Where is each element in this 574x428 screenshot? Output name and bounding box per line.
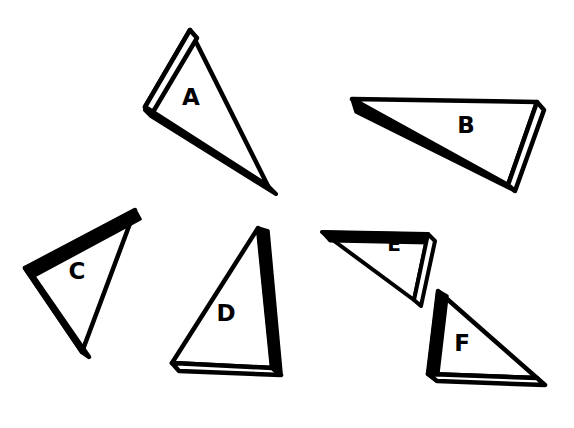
figure-canvas: A B C D E [0, 0, 574, 428]
shape-e-top-edge-shadow [322, 232, 429, 243]
triangles-figure: A B C D E [0, 0, 574, 428]
shape-d-label: D [216, 300, 235, 326]
shape-f-bottom-face-rim [428, 374, 545, 385]
shape-e-label: E [387, 232, 401, 256]
shape-c-label: C [69, 258, 86, 284]
shape-b-label: B [457, 112, 475, 138]
shape-f-label: F [454, 330, 470, 356]
shape-a-label: A [182, 84, 200, 110]
